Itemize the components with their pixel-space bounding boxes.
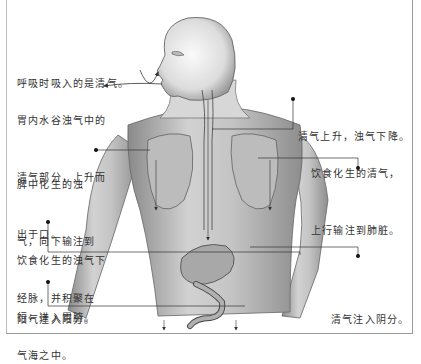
label-yang-qi: 阳气注入阳分。 <box>17 272 95 348</box>
label-line: 饮食化生的浊气下 <box>17 251 107 270</box>
label-line: 胃内水谷浊气中的 <box>17 111 107 130</box>
label-line: 饮食化生的清气， <box>311 164 401 183</box>
label-line: 清气注入阴分。 <box>331 310 409 329</box>
label-clear-yin: 清气注入阴分。 <box>331 272 409 348</box>
label-line: 脾中化生的浊 <box>17 175 95 194</box>
label-food-clear: 饮食化生的清气， 上行输注到肺脏。 <box>311 126 401 259</box>
label-line: 上行输注到肺脏。 <box>311 221 401 240</box>
label-line: 阳气注入阳分。 <box>17 310 95 329</box>
head <box>157 17 235 100</box>
label-line: 气海之中。 <box>17 346 95 364</box>
